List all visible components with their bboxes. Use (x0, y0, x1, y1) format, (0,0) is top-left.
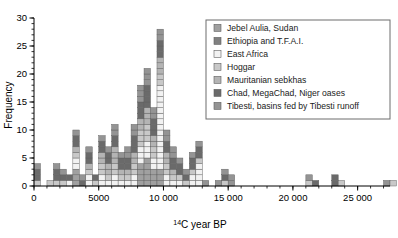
histogram-cell (170, 169, 176, 175)
histogram-cell (144, 113, 150, 119)
histogram-cell (163, 164, 169, 170)
histogram-cell (157, 119, 163, 125)
histogram-cell (157, 63, 163, 69)
histogram-cell (157, 152, 163, 158)
histogram-cell (222, 169, 228, 175)
histogram-cell (157, 108, 163, 114)
histogram-cell (105, 147, 111, 153)
histogram-cell (170, 158, 176, 164)
histogram-cell (112, 158, 118, 164)
histogram-cell (176, 180, 182, 186)
histogram-cell (189, 158, 195, 164)
x-axis-ticks: 0500010 00015 00020 00025 000 (31, 186, 383, 203)
chart-figure: 0500010 00015 00020 00025 000 0510152025… (0, 0, 398, 238)
histogram-cell (196, 175, 202, 181)
histogram-cell (66, 175, 72, 181)
histogram-cell (131, 136, 137, 142)
histogram-cell (73, 130, 79, 136)
histogram-cell (157, 158, 163, 164)
histogram-cell (306, 175, 312, 181)
histogram-cell (138, 130, 144, 136)
histogram-cell (332, 180, 338, 186)
histogram-cell (384, 180, 390, 186)
histogram-cell (151, 113, 157, 119)
histogram-cell (73, 164, 79, 170)
x-tick-label: 0 (31, 192, 36, 203)
histogram-cell (79, 175, 85, 181)
histogram-cell (99, 147, 105, 153)
histogram-cell (151, 152, 157, 158)
histogram-cell (157, 175, 163, 181)
histogram-cell (332, 175, 338, 181)
histogram-cell (118, 152, 124, 158)
histogram-cell (157, 102, 163, 108)
y-tick-label: 0 (22, 180, 27, 191)
histogram-cell (163, 141, 169, 147)
histogram-cell (189, 169, 195, 175)
histogram-cell (151, 141, 157, 147)
histogram-cell (176, 164, 182, 170)
y-axis-ticks: 051015202530 (16, 12, 34, 191)
y-tick-label: 30 (16, 12, 27, 23)
histogram-cell (151, 108, 157, 114)
histogram-cell (112, 169, 118, 175)
histogram-cell (151, 180, 157, 186)
y-tick-label: 15 (16, 96, 27, 107)
legend-label-hoggar: Hoggar (227, 62, 255, 72)
y-tick-label: 10 (16, 124, 27, 135)
histogram-cell (86, 147, 92, 153)
histogram-cell (112, 130, 118, 136)
histogram-cell (125, 152, 131, 158)
histogram-cell (60, 175, 66, 181)
histogram-cell (118, 175, 124, 181)
histogram-cell (338, 180, 344, 186)
histogram-cell (125, 158, 131, 164)
histogram-cell (157, 147, 163, 153)
histogram-cell (189, 164, 195, 170)
histogram-cell (196, 147, 202, 153)
histogram-cell (157, 130, 163, 136)
histogram-cell (112, 175, 118, 181)
histogram-cell (144, 147, 150, 153)
histogram-cell (125, 164, 131, 170)
legend-label-chad: Chad, MegaChad, Niger oases (227, 88, 345, 98)
histogram-cell (170, 147, 176, 153)
legend-label-tibesti: Tibesti, basins fed by Tibesti runoff (227, 101, 359, 111)
histogram-cell (138, 96, 144, 102)
histogram-cell (163, 180, 169, 186)
histogram-cell (144, 108, 150, 114)
histogram-cell (144, 169, 150, 175)
histogram-cell (125, 180, 131, 186)
histogram-cell (112, 180, 118, 186)
histogram-cell (144, 68, 150, 74)
histogram-cell (151, 175, 157, 181)
histogram-cell (151, 136, 157, 142)
histogram-cell (86, 158, 92, 164)
histogram-cell (73, 180, 79, 186)
histogram-cell (144, 74, 150, 80)
y-axis-title: Frequency (3, 81, 14, 128)
histogram-cell (86, 169, 92, 175)
histogram-cell (157, 57, 163, 63)
histogram-cell (53, 164, 59, 170)
histogram-cell (86, 180, 92, 186)
histogram-cell (176, 158, 182, 164)
histogram-cell (151, 124, 157, 130)
histogram-cell (138, 147, 144, 153)
histogram-cell (53, 169, 59, 175)
histogram-cell (157, 96, 163, 102)
histogram-cell (92, 175, 98, 181)
histogram-cell (176, 169, 182, 175)
histogram-cell (125, 169, 131, 175)
histogram-cell (99, 136, 105, 142)
histogram-cell (202, 180, 208, 186)
histogram-cell (196, 158, 202, 164)
histogram-cell (66, 180, 72, 186)
histogram-cell (112, 164, 118, 170)
histogram-cell (157, 113, 163, 119)
histogram-cell (138, 113, 144, 119)
histogram-cell (79, 180, 85, 186)
histogram-cell (92, 180, 98, 186)
chart-legend: Jebel Aulia, SudanEthiopia and T.F.A.I.E… (206, 20, 390, 119)
x-tick-label: 15 000 (214, 192, 243, 203)
